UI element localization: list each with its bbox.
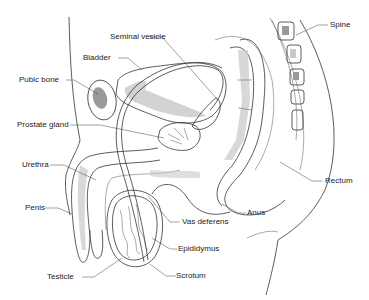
label-testicle: Testicle	[47, 272, 74, 282]
pubic-bone	[85, 78, 120, 122]
label-spine: Spine	[330, 20, 350, 30]
rectum	[215, 36, 285, 215]
label-anus: Anus	[247, 208, 265, 218]
abdomen-outline	[65, 17, 80, 215]
testicle	[120, 204, 148, 258]
label-rectum: Rectum	[325, 176, 353, 186]
label-penis: Penis	[25, 203, 45, 213]
label-urethra: Urethra	[22, 160, 49, 170]
anatomy-diagram: Seminal vesicle Bladder Pubic bone Prost…	[0, 0, 369, 300]
label-bladder: Bladder	[83, 53, 111, 63]
scrotum	[107, 190, 163, 266]
label-epididymus: Epididymus	[178, 244, 219, 254]
prostate-gland	[158, 123, 200, 151]
label-prostate-gland: Prostate gland	[17, 120, 69, 130]
label-scrotum: Scrotum	[176, 271, 206, 281]
bladder	[116, 63, 226, 123]
anatomy-illustration	[0, 0, 369, 300]
label-vas-deferens: Vas deferens	[182, 217, 229, 227]
spine	[272, 20, 304, 140]
back-outline	[266, 20, 334, 295]
label-pubic-bone: Pubic bone	[19, 75, 59, 85]
label-seminal-vesicle: Seminal vesicle	[110, 32, 166, 42]
